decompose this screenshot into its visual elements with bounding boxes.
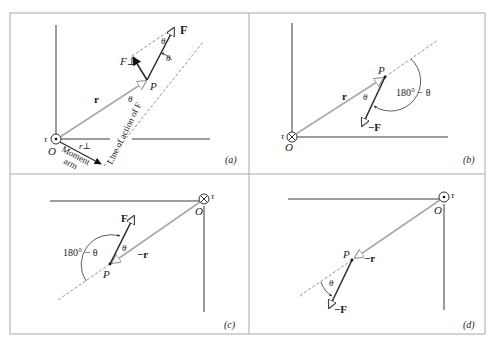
point-P-dot (351, 259, 354, 262)
label-neg-r: −r (364, 252, 375, 264)
label-P: P (342, 248, 350, 260)
panel-a: F F⊥ θ θ P r θ Line of action of F τ O r… (44, 23, 237, 171)
label-tau: τ (451, 190, 455, 200)
caption-a: (a) (225, 154, 237, 166)
label-theta-r: θ (128, 94, 133, 104)
label-F: F (121, 212, 128, 224)
label-O: O (434, 204, 442, 216)
label-angle: 180° − θ (63, 247, 98, 258)
label-r-perp: r⊥ (79, 141, 91, 151)
label-F-perp: F⊥ (119, 55, 137, 67)
label-P: P (149, 80, 157, 92)
position-vector-neg-r (355, 200, 440, 258)
label-O: O (48, 145, 56, 157)
torque-into-page-icon (199, 194, 209, 204)
label-tau: τ (44, 134, 48, 144)
label-theta: θ (122, 243, 127, 253)
label-neg-F: −F (368, 121, 381, 133)
caption-b: (b) (463, 154, 475, 166)
dashed-extension (385, 40, 438, 77)
label-O: O (195, 205, 203, 217)
panel-c: F θ 180° − θ −r P τ O (c) (50, 191, 236, 331)
label-angle: 180° − θ (396, 87, 431, 98)
label-neg-r: −r (137, 248, 148, 260)
dashed-parallel (132, 27, 175, 56)
panel-d: P −r θ −F τ O (d) (288, 190, 475, 331)
label-tau: τ (211, 191, 215, 201)
label-theta-top: θ (161, 36, 166, 46)
label-theta: θ (363, 92, 368, 102)
point-P-dot (109, 263, 112, 266)
point-P-dot (384, 76, 387, 79)
label-r: r (94, 93, 99, 105)
label-r: r (342, 90, 347, 102)
caption-d: (d) (463, 319, 475, 331)
label-O: O (285, 141, 293, 153)
caption-c: (c) (224, 319, 236, 331)
label-F: F (180, 23, 187, 37)
torque-out-of-page-icon (439, 192, 449, 202)
torque-out-of-page-icon (51, 134, 61, 144)
label-P: P (102, 268, 110, 280)
label-neg-F: −F (334, 303, 347, 315)
label-tau: τ (281, 131, 285, 141)
label-line-of-action: Line of action of F (105, 101, 144, 166)
label-theta: θ (329, 278, 334, 288)
panel-b: P r θ 180° − θ −F τ O (b) (281, 23, 475, 166)
torque-diagram: F F⊥ θ θ P r θ Line of action of F τ O r… (0, 0, 500, 348)
panel-frame (10, 13, 485, 334)
label-P: P (377, 64, 385, 76)
label-theta-side: θ (166, 53, 171, 63)
